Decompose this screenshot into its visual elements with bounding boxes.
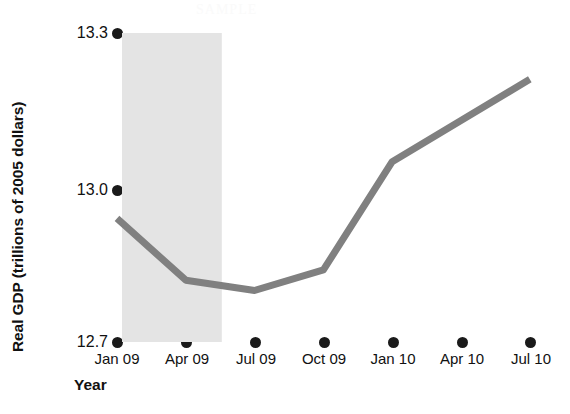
recession-shaded-band (122, 33, 222, 342)
gdp-line-chart: SAMPLE Real GDP (trillions of 2005 dolla… (0, 0, 570, 414)
plot-area (0, 0, 570, 414)
